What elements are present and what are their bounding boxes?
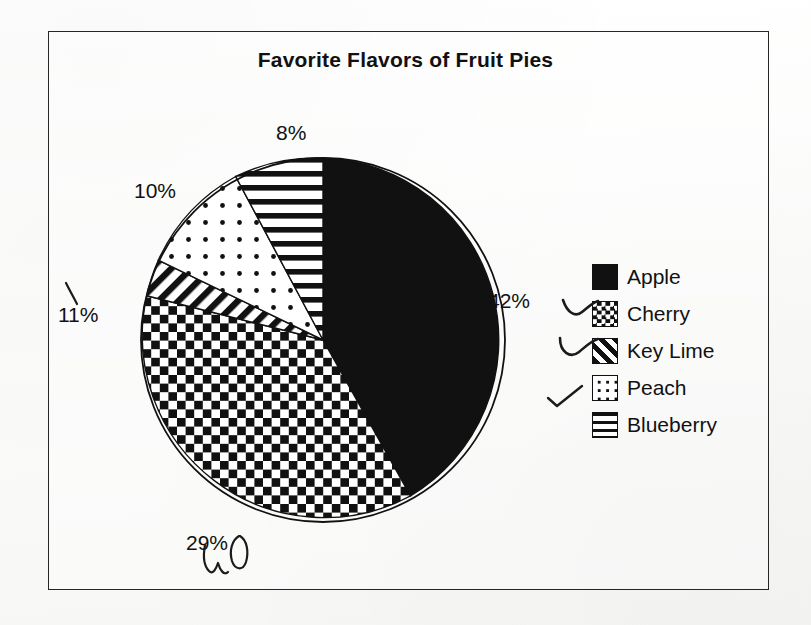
pie-label-apple-pct: 42% [488,289,530,313]
legend-item-cherry[interactable]: Cherry [592,295,717,332]
legend-swatch-blueberry-icon [592,412,618,438]
pie-label-peach-pct: 10% [134,179,176,203]
pie-label-blueberry-pct: 8% [276,121,306,145]
pie-label-key-lime-pct: 11% [58,303,98,327]
legend-item-apple[interactable]: Apple [592,258,717,295]
legend-label-blueberry: Blueberry [627,414,717,435]
pie-label-cherry-pct: 29% [186,531,228,555]
legend-label-apple: Apple [627,266,681,287]
legend-item-blueberry[interactable]: Blueberry [592,406,717,443]
legend-label-key-lime: Key Lime [627,340,715,361]
legend-label-cherry: Cherry [627,303,690,324]
legend-swatch-cherry-icon [592,301,618,327]
legend-swatch-apple-icon [592,264,618,290]
chart-legend: Apple Cherry Key Lime Peach Blueberry [592,258,717,443]
worksheet-page: Favorite Flavors of Fruit Pies [0,0,811,625]
legend-label-peach: Peach [627,377,687,398]
legend-swatch-peach-icon [592,375,618,401]
legend-swatch-key-lime-icon [592,338,618,364]
legend-item-key-lime[interactable]: Key Lime [592,332,717,369]
legend-item-peach[interactable]: Peach [592,369,717,406]
